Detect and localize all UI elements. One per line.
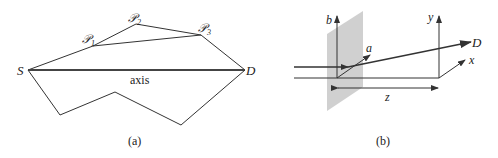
label-D-a: D [245,63,256,78]
figure-canvas: S D 𝒫1 𝒫2 𝒫3 axis (a) b a D y x z (b) [0,0,498,158]
figure-a: S D 𝒫1 𝒫2 𝒫3 axis (a) [17,11,256,148]
label-P3: 𝒫3 [198,21,211,37]
label-x: x [468,53,475,67]
caption-b: (b) [376,134,390,148]
upper-path [28,24,245,70]
label-P1: 𝒫1 [82,32,95,48]
label-D-b: D [471,35,482,50]
label-axis: axis [130,73,150,87]
x-axis [439,60,465,78]
label-S: S [17,63,24,78]
p1-p3-chord [93,35,201,46]
caption-a: (a) [128,134,141,148]
label-y: y [427,10,434,24]
label-a: a [366,41,372,55]
label-z: z [384,90,390,104]
label-P2: 𝒫2 [128,11,141,27]
aperture-plane [327,11,363,111]
figure-b: b a D y x z (b) [294,10,482,148]
label-b: b [326,13,332,27]
